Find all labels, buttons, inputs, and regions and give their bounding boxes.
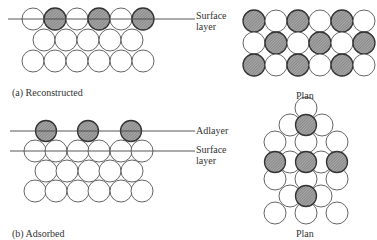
substrate-atom — [326, 131, 348, 153]
substrate-atom — [66, 50, 88, 72]
reconstructed-plan-view — [243, 10, 375, 76]
substrate-atom — [33, 29, 55, 51]
substrate-atom — [88, 180, 110, 202]
substrate-atom — [353, 54, 375, 76]
substrate-atom — [131, 180, 153, 202]
substrate-atom — [121, 29, 143, 51]
substrate-atom — [326, 202, 348, 224]
reconstructed-side-view — [8, 8, 195, 72]
substrate-atom — [24, 180, 46, 202]
reconstructed-atom — [243, 10, 265, 32]
substrate-atom — [56, 160, 78, 182]
reconstructed-atom — [331, 10, 353, 32]
substrate-atom — [110, 180, 132, 202]
substrate-atom — [309, 10, 331, 32]
adsorbed-atom — [327, 152, 348, 173]
substrate-atom — [77, 29, 99, 51]
surface-structure-diagram — [0, 0, 377, 240]
substrate-atom — [22, 50, 44, 72]
substrate-atom — [265, 10, 287, 32]
adsorbed-atom — [265, 152, 286, 173]
substrate-atom — [110, 50, 132, 72]
surface-layer-label-a: Surface — [196, 10, 227, 21]
adsorbed-atom — [296, 186, 317, 207]
reconstructed-atom — [309, 32, 331, 54]
substrate-atom — [287, 32, 309, 54]
adsorbed-plan-view — [264, 97, 348, 224]
caption-reconstructed: (a) Reconstructed — [12, 87, 83, 98]
adsorbed-atom — [296, 152, 317, 173]
substrate-atom — [265, 54, 287, 76]
substrate-atom — [35, 160, 57, 182]
substrate-atom — [353, 10, 375, 32]
reconstructed-atom — [353, 32, 375, 54]
plan-caption-b: Plan — [296, 228, 314, 239]
substrate-atom — [132, 50, 154, 72]
surface-layer-label-a-2: layer — [196, 21, 216, 32]
reconstructed-atom — [265, 32, 287, 54]
substrate-atom — [121, 160, 143, 182]
plan-caption-a: Plan — [296, 90, 314, 101]
reconstructed-atom — [331, 54, 353, 76]
adsorbed-side-view — [10, 121, 195, 203]
substrate-atom — [44, 50, 66, 72]
substrate-atom — [99, 29, 121, 51]
substrate-atom — [264, 131, 286, 153]
reconstructed-atom — [287, 10, 309, 32]
substrate-atom — [243, 32, 265, 54]
substrate-atom — [309, 54, 331, 76]
adsorbed-atom — [296, 115, 317, 136]
adlayer-label: Adlayer — [196, 125, 228, 136]
substrate-atom — [67, 180, 89, 202]
surface-layer-label-b: Surface — [196, 144, 227, 155]
substrate-atom — [45, 180, 67, 202]
substrate-atom — [55, 29, 77, 51]
reconstructed-atom — [243, 54, 265, 76]
substrate-atom — [264, 202, 286, 224]
surface-layer-label-b-2: layer — [196, 155, 216, 166]
substrate-atom — [78, 160, 100, 182]
reconstructed-atom — [287, 54, 309, 76]
caption-adsorbed: (b) Adsorbed — [12, 228, 65, 239]
substrate-atom — [88, 50, 110, 72]
substrate-atom — [331, 32, 353, 54]
substrate-atom — [99, 160, 121, 182]
